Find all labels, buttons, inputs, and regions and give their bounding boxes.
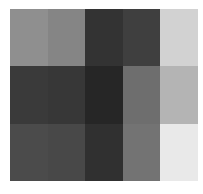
heatmap-cell-r1-c2 (85, 66, 123, 123)
heatmap-cell-r0-c2 (85, 9, 123, 66)
heatmap-cell-r0-c4 (160, 9, 198, 66)
heatmap-cell-r2-c1 (48, 124, 86, 181)
heatmap-cell-r2-c2 (85, 124, 123, 181)
heatmap-cell-r0-c1 (48, 9, 86, 66)
heatmap-cell-r0-c3 (123, 9, 161, 66)
heatmap-cell-r2-c4 (160, 124, 198, 181)
heatmap-cell-r1-c4 (160, 66, 198, 123)
heatmap-figure (0, 0, 203, 194)
heatmap-cell-r0-c0 (10, 9, 48, 66)
heatmap-grid (10, 9, 198, 181)
heatmap-cell-r2-c3 (123, 124, 161, 181)
heatmap-cell-r1-c1 (48, 66, 86, 123)
heatmap-cell-r1-c0 (10, 66, 48, 123)
heatmap-cell-r1-c3 (123, 66, 161, 123)
heatmap-cell-r2-c0 (10, 124, 48, 181)
